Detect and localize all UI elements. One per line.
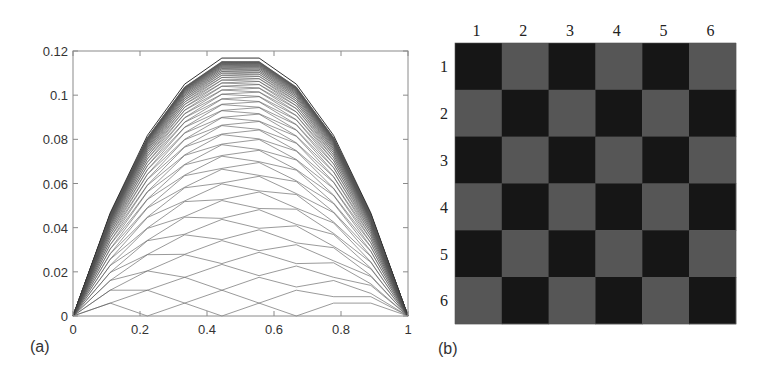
x-tick-label: 0.2 xyxy=(131,322,149,337)
grid-cell xyxy=(642,43,689,90)
grid-cell xyxy=(549,277,596,324)
column-label: 2 xyxy=(519,22,527,39)
grid-cell xyxy=(549,90,596,137)
row-label: 1 xyxy=(440,58,448,75)
grid-cell xyxy=(455,277,502,324)
y-tick-label: 0.12 xyxy=(43,44,68,59)
grid-cell xyxy=(595,230,642,277)
x-tick-label: 0 xyxy=(69,322,76,337)
curve-family xyxy=(73,58,408,316)
grid-cell xyxy=(689,90,736,137)
grid-cell xyxy=(642,230,689,277)
y-tick-label: 0.06 xyxy=(43,177,68,192)
y-tick-label: 0.04 xyxy=(43,221,68,236)
panel-label-b: (b) xyxy=(438,340,458,357)
grid-cell xyxy=(502,43,549,90)
grid-cell xyxy=(502,230,549,277)
column-label: 5 xyxy=(660,22,668,39)
y-tick-label: 0 xyxy=(61,309,68,324)
row-label: 4 xyxy=(440,199,448,216)
grid-cell xyxy=(502,183,549,230)
column-label: 1 xyxy=(472,22,480,39)
grid-cell xyxy=(595,277,642,324)
y-tick-label: 0.1 xyxy=(50,88,68,103)
grid-cell xyxy=(549,43,596,90)
column-label: 3 xyxy=(566,22,574,39)
checkerboard-grid xyxy=(455,43,736,324)
row-label: 3 xyxy=(440,152,448,169)
grid-cell xyxy=(595,183,642,230)
grid-cell xyxy=(595,90,642,137)
x-tick-label: 1 xyxy=(404,322,411,337)
iterate-curve xyxy=(73,150,408,316)
grid-cell xyxy=(689,137,736,184)
column-labels: 123456 xyxy=(472,22,714,39)
panel-label-a: (a) xyxy=(30,338,50,355)
grid-cell xyxy=(595,137,642,184)
grid-cell xyxy=(595,43,642,90)
iterate-curve xyxy=(73,156,408,316)
figure: 00.20.40.60.81 00.020.040.060.080.10.12 … xyxy=(0,0,765,383)
y-tick-label: 0.08 xyxy=(43,132,68,147)
iterate-curve xyxy=(73,130,408,316)
iterate-curve xyxy=(73,126,408,316)
row-labels: 123456 xyxy=(440,58,448,309)
x-tick-label: 0.4 xyxy=(198,322,216,337)
grid-cell xyxy=(455,183,502,230)
grid-cell xyxy=(549,230,596,277)
checkerboard-panel-b: 123456 123456 (b) xyxy=(438,22,736,357)
row-label: 2 xyxy=(440,105,448,122)
line-chart-panel-a: 00.20.40.60.81 00.020.040.060.080.10.12 … xyxy=(30,44,412,355)
column-label: 4 xyxy=(613,22,621,39)
iterate-curve xyxy=(73,252,408,316)
grid-cell xyxy=(642,183,689,230)
grid-cell xyxy=(502,277,549,324)
grid-cell xyxy=(549,183,596,230)
grid-cell xyxy=(642,277,689,324)
grid-cell xyxy=(455,137,502,184)
x-tick-label: 0.6 xyxy=(265,322,283,337)
grid-cell xyxy=(549,137,596,184)
grid-cell xyxy=(689,43,736,90)
grid-cell xyxy=(689,183,736,230)
grid-cell xyxy=(502,137,549,184)
grid-cell xyxy=(455,90,502,137)
row-label: 6 xyxy=(440,292,448,309)
grid-cell xyxy=(689,277,736,324)
grid-cell xyxy=(455,230,502,277)
grid-cell xyxy=(455,43,502,90)
grid-cell xyxy=(642,90,689,137)
iterate-curve xyxy=(73,303,408,316)
row-label: 5 xyxy=(440,246,448,263)
grid-cell xyxy=(689,230,736,277)
iterate-curve xyxy=(73,140,408,317)
x-tick-label: 0.8 xyxy=(332,322,350,337)
y-tick-label: 0.02 xyxy=(43,265,68,280)
grid-cell xyxy=(642,137,689,184)
column-label: 6 xyxy=(706,22,714,39)
grid-cell xyxy=(502,90,549,137)
